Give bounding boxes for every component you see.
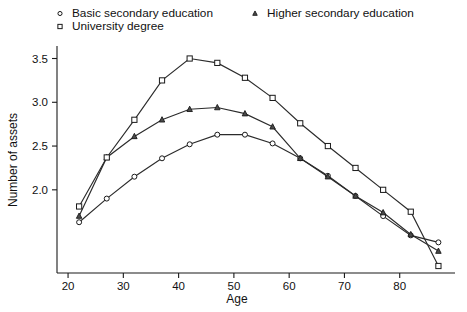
x-tick-label: 40: [172, 280, 185, 292]
series-circle: [77, 132, 441, 245]
circle-marker: [242, 132, 247, 137]
square-marker: [353, 165, 358, 170]
legend-item-circle: Basic secondary education: [58, 6, 213, 20]
x-tick-label: 60: [283, 280, 296, 292]
legend-label: University degree: [72, 19, 164, 33]
series-square: [77, 56, 442, 269]
square-marker: [298, 121, 303, 126]
square-marker: [242, 75, 247, 80]
chart-container: Basic secondary educationHigher secondar…: [0, 0, 467, 312]
y-tick-label: 2.0: [32, 184, 48, 196]
legend-item-square: University degree: [58, 19, 164, 33]
triangle-marker: [380, 209, 385, 214]
circle-marker: [215, 132, 220, 137]
square-marker: [58, 24, 62, 28]
square-marker: [77, 204, 82, 209]
square-marker: [187, 56, 192, 61]
line-chart: Basic secondary educationHigher secondar…: [0, 0, 467, 312]
square-marker: [104, 155, 109, 160]
x-tick-label: 50: [227, 280, 240, 292]
x-tick-label: 70: [338, 280, 351, 292]
legend-label: Basic secondary education: [72, 6, 213, 20]
circle-marker: [77, 220, 82, 225]
x-tick-label: 20: [62, 280, 75, 292]
square-marker: [215, 60, 220, 65]
chart-legend: Basic secondary educationHigher secondar…: [58, 6, 414, 33]
circle-marker: [132, 174, 137, 179]
y-axis-title: Number of assets: [6, 113, 20, 207]
circle-marker: [160, 156, 165, 161]
circle-marker: [436, 240, 441, 245]
square-marker: [270, 95, 275, 100]
legend-label: Higher secondary education: [267, 6, 414, 20]
series-line-square: [79, 59, 438, 266]
y-tick-label: 3.5: [32, 53, 48, 65]
circle-marker: [187, 142, 192, 147]
triangle-marker: [76, 213, 81, 218]
square-marker: [436, 263, 441, 268]
square-marker: [381, 187, 386, 192]
legend-item-triangle: Higher secondary education: [253, 6, 414, 20]
square-marker: [159, 78, 164, 83]
y-tick-label: 3.0: [32, 96, 48, 108]
x-tick-label: 30: [117, 280, 130, 292]
circle-marker: [58, 11, 62, 15]
square-marker: [132, 117, 137, 122]
circle-marker: [270, 141, 275, 146]
square-marker: [408, 209, 413, 214]
triangle-marker: [253, 11, 257, 15]
chart-axes: 2.02.53.03.520304050607080: [32, 46, 455, 292]
x-axis-title: Age: [226, 292, 248, 306]
circle-marker: [104, 196, 109, 201]
triangle-marker: [132, 133, 137, 138]
triangle-marker: [436, 248, 441, 253]
square-marker: [325, 143, 330, 148]
x-tick-label: 80: [393, 280, 406, 292]
chart-series: [76, 56, 441, 269]
y-tick-label: 2.5: [32, 140, 48, 152]
